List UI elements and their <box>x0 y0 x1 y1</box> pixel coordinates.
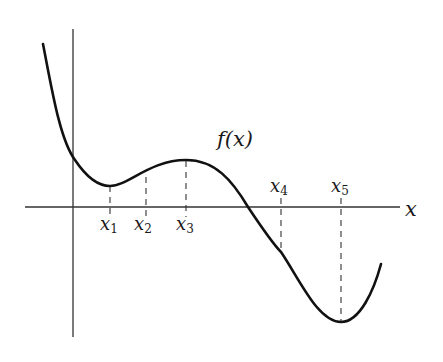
dashed-guides <box>110 161 341 321</box>
label-x2: x2 <box>134 213 152 236</box>
function-graph: f(x) x x1 x2 x3 x4 x5 <box>0 0 443 362</box>
label-x4: x4 <box>270 175 288 198</box>
function-label: f(x) <box>215 127 253 151</box>
x-axis-label: x <box>405 197 417 221</box>
label-x5: x5 <box>331 175 349 198</box>
label-x3: x3 <box>176 213 194 236</box>
label-x1: x1 <box>100 213 118 236</box>
